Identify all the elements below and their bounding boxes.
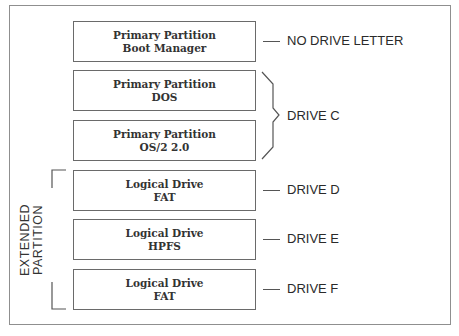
label-drive-f: DRIVE F <box>287 282 338 296</box>
drive-c-brace <box>262 72 279 159</box>
label-drive-c: DRIVE C <box>287 109 340 123</box>
extended-partition-label: EXTENDED PARTITION <box>19 204 45 276</box>
extended-partition-bracket-bottom <box>52 282 66 309</box>
connector-lines <box>0 0 459 336</box>
label-drive-d: DRIVE D <box>287 183 340 197</box>
dash-drive-f <box>263 289 280 290</box>
dash-drive-e <box>263 239 280 240</box>
dash-drive-d <box>263 190 280 191</box>
extended-partition-bracket-top <box>52 170 66 188</box>
extended-label-line2: PARTITION <box>32 204 45 276</box>
label-drive-e: DRIVE E <box>287 232 339 246</box>
dash-no-drive-letter <box>263 41 280 42</box>
label-no-drive-letter: NO DRIVE LETTER <box>287 34 403 48</box>
